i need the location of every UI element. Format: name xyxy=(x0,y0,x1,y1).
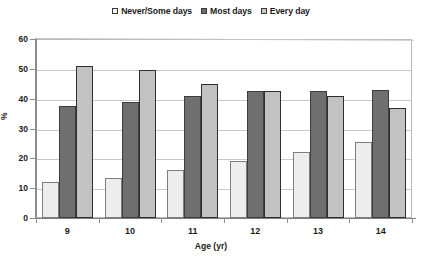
legend-label-every-day: Every day xyxy=(270,6,310,16)
y-axis-tick-label: 30 xyxy=(4,124,28,134)
y-axis-title: % xyxy=(0,112,9,120)
bar-10-series-2 xyxy=(139,70,156,218)
y-axis-tick-label: 50 xyxy=(4,64,28,74)
legend-swatch-most-days xyxy=(201,8,207,14)
bar-14-series-2 xyxy=(389,108,406,218)
legend-item-every-day: Every day xyxy=(261,6,310,16)
bar-12-series-2 xyxy=(264,91,281,218)
legend-item-never-some-days: Never/Some days xyxy=(112,6,192,16)
bar-14-series-0 xyxy=(355,142,372,218)
y-axis-tick-label: 60 xyxy=(4,34,28,44)
bar-12-series-0 xyxy=(230,161,247,218)
x-axis-tick xyxy=(161,218,162,223)
chart-legend: Never/Some days Most days Every day xyxy=(0,6,422,16)
x-axis-tick xyxy=(412,218,413,223)
x-axis-line xyxy=(30,218,416,219)
y-axis-tick-label: 40 xyxy=(4,94,28,104)
x-axis-tick xyxy=(224,218,225,223)
x-axis-tick-label: 14 xyxy=(366,226,396,236)
bar-13-series-1 xyxy=(310,91,327,218)
x-axis-tick xyxy=(36,218,37,223)
x-axis-tick xyxy=(99,218,100,223)
bar-13-series-0 xyxy=(293,152,310,218)
legend-swatch-every-day xyxy=(261,8,267,14)
bar-11-series-0 xyxy=(167,170,184,218)
legend-label-never-some-days: Never/Some days xyxy=(121,6,192,16)
x-axis-title: Age (yr) xyxy=(0,241,422,251)
bars-layer xyxy=(36,39,412,218)
legend-swatch-never-some-days xyxy=(112,8,118,14)
x-axis-tick xyxy=(287,218,288,223)
bar-11-series-1 xyxy=(184,96,201,218)
legend-label-most-days: Most days xyxy=(210,6,252,16)
legend-item-most-days: Most days xyxy=(201,6,252,16)
bar-11-series-2 xyxy=(201,84,218,218)
bar-10-series-0 xyxy=(105,178,122,218)
bar-13-series-2 xyxy=(327,96,344,218)
bar-12-series-1 xyxy=(247,91,264,218)
bar-10-series-1 xyxy=(122,102,139,218)
bar-9-series-1 xyxy=(59,106,76,218)
y-axis-tick-label: 0 xyxy=(4,213,28,223)
y-axis-tick-label: 20 xyxy=(4,153,28,163)
x-axis-tick-label: 13 xyxy=(303,226,333,236)
x-axis-tick-label: 9 xyxy=(52,226,82,236)
bar-9-series-0 xyxy=(42,182,59,218)
bar-9-series-2 xyxy=(76,66,93,218)
bar-14-series-1 xyxy=(372,90,389,218)
y-axis-tick-label: 10 xyxy=(4,183,28,193)
x-axis-tick-label: 10 xyxy=(115,226,145,236)
x-axis-tick-label: 11 xyxy=(178,226,208,236)
x-axis-tick-label: 12 xyxy=(240,226,270,236)
x-axis-tick xyxy=(349,218,350,223)
